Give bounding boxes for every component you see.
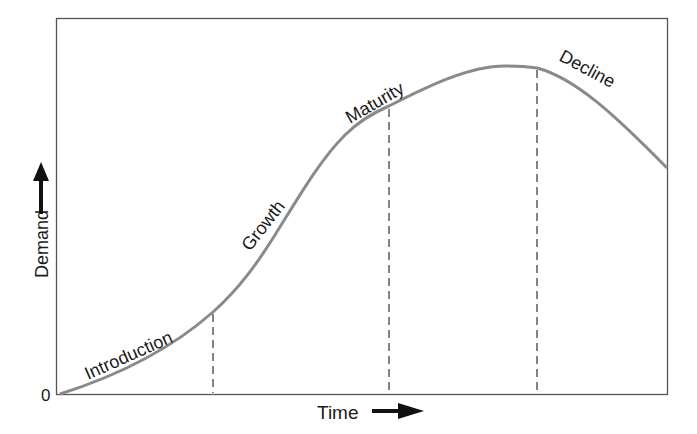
- x-axis-label: Time: [317, 402, 359, 423]
- origin-label: 0: [41, 386, 50, 405]
- stage-label-decline: Decline: [556, 46, 618, 92]
- product-life-cycle-diagram: Introduction Growth Maturity Decline Dem…: [0, 0, 697, 434]
- stage-label-introduction: Introduction: [81, 327, 175, 384]
- y-axis-label: Demand: [32, 210, 52, 278]
- right-arrow-icon: [372, 403, 424, 419]
- up-arrow-icon: [33, 162, 49, 214]
